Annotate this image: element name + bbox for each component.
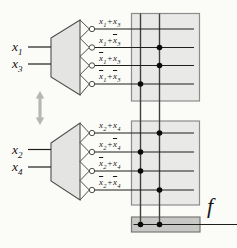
decoder-fan-line xyxy=(80,190,89,200)
plane-box-1 xyxy=(132,14,200,102)
sum-term-label: x2+x4 xyxy=(99,177,121,188)
decoder-output-bubble xyxy=(89,45,94,50)
input-label-x3: x3 xyxy=(12,57,23,71)
decoder-fan-line xyxy=(80,75,89,84)
swap-arrow-icon xyxy=(36,91,45,99)
sum-term-label: x1+x3 xyxy=(99,53,121,64)
sum-term-label: x2+x4 xyxy=(99,158,121,169)
decoder-fan-line xyxy=(80,181,89,191)
decoder-fan-line xyxy=(80,38,89,47)
swap-arrow-icon xyxy=(36,118,45,126)
sum-term-label: x1+x3 xyxy=(99,71,121,82)
sum-term-label: x1+x3 xyxy=(99,16,121,27)
decoder-fan-line xyxy=(80,162,89,172)
connection-dot xyxy=(138,81,144,87)
sum-term-label: x2+x4 xyxy=(99,120,121,131)
decoder-fan-line xyxy=(80,66,89,75)
decoder-output-bubble xyxy=(89,149,94,154)
decoder-1 xyxy=(51,20,80,95)
decoder-output-bubble xyxy=(89,63,94,68)
connection-dot xyxy=(157,130,163,136)
connection-dot xyxy=(157,187,163,193)
decoder-output-bubble xyxy=(89,187,94,192)
input-label-x2: x2 xyxy=(12,143,23,157)
decoder-output-bubble xyxy=(89,168,94,173)
connection-dot xyxy=(157,45,163,51)
decoder-fan-line xyxy=(80,152,89,162)
decoder-output-bubble xyxy=(89,130,94,135)
decoder-fan-line xyxy=(80,57,89,66)
output-label: f xyxy=(207,194,213,218)
plane-box-2 xyxy=(132,121,200,205)
decoder-2 xyxy=(51,123,80,200)
decoder-plane-diagram: x1x3x1+x3x1+x3x1+x3x1+x3x2x4x2+x4x2+x4x2… xyxy=(0,0,237,248)
decoder-fan-line xyxy=(80,133,89,143)
decoder-output-bubble xyxy=(89,81,94,86)
sum-term-label: x1+x3 xyxy=(99,35,121,46)
decoder-fan-line xyxy=(80,29,89,38)
output-connection-dot xyxy=(138,222,144,228)
input-label-x4: x4 xyxy=(12,160,23,174)
output-connection-dot xyxy=(157,222,163,228)
decoder-fan-line xyxy=(80,143,89,153)
decoder-fan-line xyxy=(80,84,89,95)
input-label-x1: x1 xyxy=(12,40,23,54)
decoder-output-bubble xyxy=(89,26,94,31)
connection-dot xyxy=(157,63,163,69)
sum-term-label: x2+x4 xyxy=(99,139,121,150)
connection-dot xyxy=(138,168,144,174)
decoder-fan-line xyxy=(80,171,89,181)
decoder-fan-line xyxy=(80,20,89,29)
decoder-fan-line xyxy=(80,48,89,57)
connection-dot xyxy=(138,149,144,155)
decoder-fan-line xyxy=(80,123,89,133)
